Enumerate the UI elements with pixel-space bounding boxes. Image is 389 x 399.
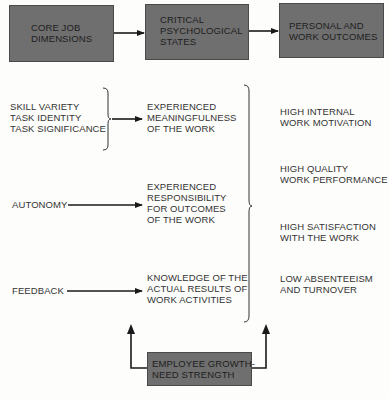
- connector-lines: [0, 0, 389, 399]
- arrow-moderator-left: [127, 324, 147, 368]
- brace-states: [244, 85, 252, 322]
- brace-core-group1: [103, 88, 111, 150]
- arrow-moderator-right: [252, 324, 270, 368]
